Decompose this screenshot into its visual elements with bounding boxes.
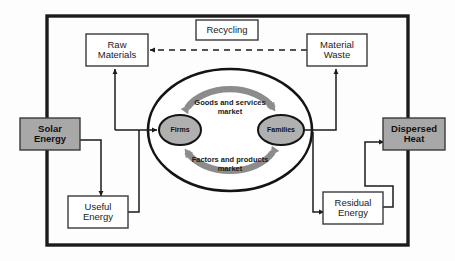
firms-node[interactable]	[159, 115, 201, 145]
dispersed-heat-box[interactable]	[383, 118, 445, 150]
residual-energy-box[interactable]	[323, 192, 383, 224]
solar-to-useful-connector	[80, 140, 101, 196]
material-waste-box[interactable]	[307, 34, 367, 66]
useful-energy-box[interactable]	[68, 196, 128, 228]
useful-to-firms-connector	[127, 130, 139, 212]
diagram-canvas: Recycling Raw Materials Material Waste S…	[0, 0, 455, 261]
raw-materials-box[interactable]	[86, 34, 148, 66]
solar-energy-box[interactable]	[20, 118, 80, 150]
diagram-svg	[0, 0, 455, 261]
families-node[interactable]	[258, 115, 304, 145]
recycling-box[interactable]	[196, 20, 258, 40]
